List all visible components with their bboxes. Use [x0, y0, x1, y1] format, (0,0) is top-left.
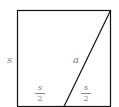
square	[18, 11, 111, 107]
diagram-canvas	[0, 0, 119, 107]
right-half-denominator: 2	[81, 95, 91, 103]
left-half-numerator: s	[35, 84, 45, 92]
right-half-numerator: s	[81, 84, 91, 92]
side-label-s: s	[7, 55, 12, 65]
left-half-fraction: s 2	[35, 84, 45, 103]
right-half-fraction: s 2	[81, 84, 91, 103]
left-half-denominator: 2	[35, 95, 45, 103]
segment-label-a: a	[73, 55, 79, 65]
